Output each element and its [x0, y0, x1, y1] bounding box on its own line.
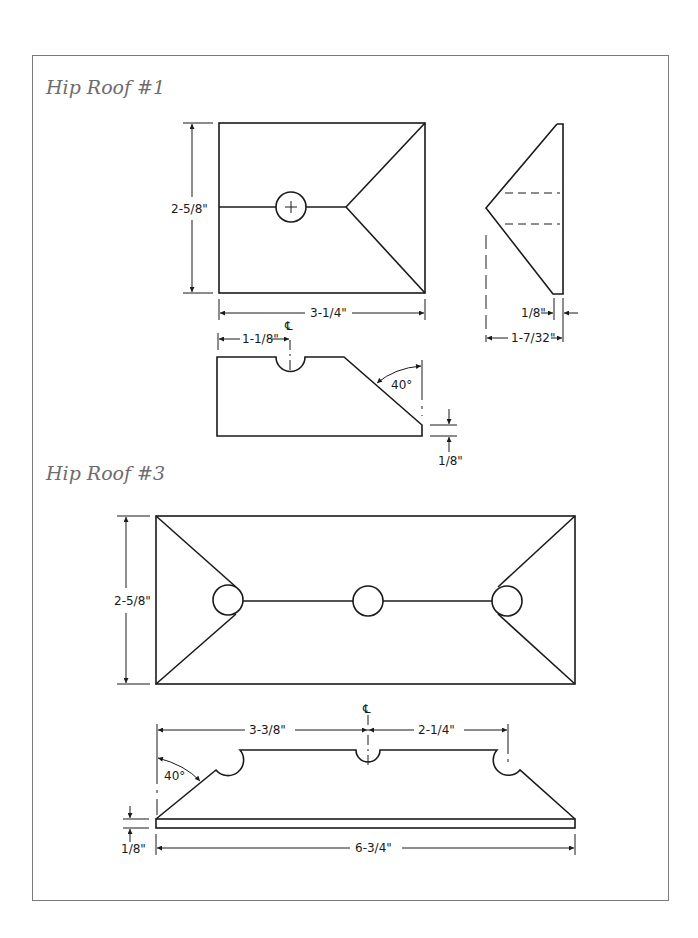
- plan3-height-dim: 2-5/8": [114, 594, 151, 608]
- center-to-right-dim: 2-1/4": [418, 723, 455, 737]
- hip-roof-3-front-view: ℄ 3-3/8" 2-1/4" 40° 1/8" 6-3/4": [121, 702, 575, 856]
- hip-roof-1-front-view: ℄ 1-1/8" 40° 1/8": [217, 319, 463, 468]
- hip-roof-1-plan-view: 2-5/8" 3-1/4": [171, 123, 425, 320]
- left-to-center-dim: 3-3/8": [249, 723, 286, 737]
- hip-roof-1-side-view: 1/8" 1-7/32": [486, 124, 578, 345]
- front3-base-thickness-dim: 1/8": [121, 842, 146, 856]
- centerline-mark-3: ℄: [362, 702, 371, 716]
- centerline-mark: ℄: [284, 319, 293, 333]
- chimney-hole-right-icon: [492, 586, 522, 616]
- front-base-thickness-dim: 1/8": [438, 454, 463, 468]
- technical-drawing: 2-5/8" 3-1/4" 1/8" 1-7/32" ℄ 1-1/8" 40°: [0, 0, 698, 938]
- chimney-hole-center-icon: [353, 586, 383, 616]
- centerline-offset-dim: 1-1/8": [242, 332, 279, 346]
- plan-width-dim: 3-1/4": [310, 306, 347, 320]
- side-depth-dim: 1-7/32": [511, 331, 555, 345]
- hip-roof-3-plan-view: 2-5/8": [114, 516, 575, 684]
- front-angle-dim: 40°: [391, 378, 412, 392]
- plan-height-dim: 2-5/8": [171, 202, 208, 216]
- chimney-hole-left-icon: [213, 585, 243, 615]
- front3-angle-dim: 40°: [164, 769, 185, 783]
- side-thickness-dim: 1/8": [521, 306, 546, 320]
- overall-width-dim: 6-3/4": [355, 841, 392, 855]
